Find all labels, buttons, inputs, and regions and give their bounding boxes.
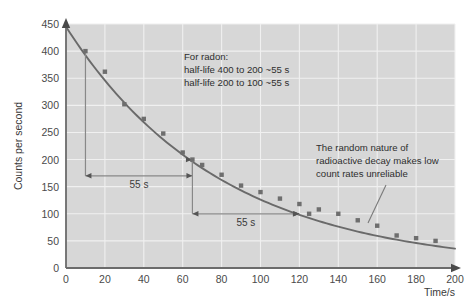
data-point [200,163,204,167]
x-tick-label: 120 [291,273,309,285]
data-point [297,202,301,206]
y-axis-arrowhead [62,18,70,28]
y-tick-label: 250 [41,126,59,138]
data-point [307,212,311,216]
data-point [122,102,126,106]
y-tick-label: 450 [41,18,59,30]
data-point [317,207,321,211]
x-tick-label: 160 [368,273,386,285]
chart-canvas: 55 s55 s 0204060801001201401601802000501… [0,0,476,301]
data-point [181,150,185,154]
x-tick-label: 0 [63,273,69,285]
x-axis-title: Time/s [424,286,455,298]
radon-note-line-2: half-life 400 to 200 ~55 s [184,64,290,75]
x-tick-label: 20 [99,273,111,285]
x-tick-label: 180 [407,273,425,285]
y-tick-label: 400 [41,45,59,57]
y-tick-label: 100 [41,208,59,220]
random-note-line-2: radioactive decay makes low [316,155,439,166]
data-point [356,218,360,222]
data-point [103,70,107,74]
radon-note-line-3: half-life 200 to 100 ~55 s [184,77,290,88]
y-tick-label: 350 [41,72,59,84]
data-point [336,212,340,216]
interval-label: 55 s [236,217,255,228]
x-tick-label: 60 [177,273,189,285]
y-tick-label: 50 [47,235,59,247]
data-point [219,173,223,177]
y-tick-label: 0 [53,262,59,274]
random-note-line-1: The random nature of [316,142,409,153]
radon-note-line-1: For radon: [184,51,228,62]
random-note-line-3: count rates unreliable [316,168,408,179]
data-point [83,49,87,53]
data-point [239,183,243,187]
x-axis-arrowhead [451,264,461,272]
x-tick-label: 140 [330,273,348,285]
x-tick-label: 200 [446,273,464,285]
data-point [433,239,437,243]
y-tick-label: 300 [41,99,59,111]
y-tick-label: 200 [41,154,59,166]
data-point [190,157,194,161]
radioactive-decay-chart: 55 s55 s 0204060801001201401601802000501… [0,0,476,301]
x-tick-label: 80 [216,273,228,285]
data-point [375,224,379,228]
data-point [414,236,418,240]
data-point [278,196,282,200]
data-point [142,117,146,121]
y-tick-label: 150 [41,181,59,193]
data-point [161,131,165,135]
x-tick-label: 40 [138,273,150,285]
y-axis-title: Counts per second [12,102,24,190]
data-point [394,233,398,237]
x-tick-label: 100 [252,273,270,285]
data-point [258,190,262,194]
interval-label: 55 s [129,179,148,190]
